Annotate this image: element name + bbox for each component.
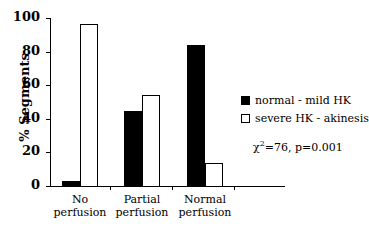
x-label-no-perfusion: No perfusion — [50, 193, 110, 219]
y-tick-20: 20 — [10, 143, 40, 158]
x-axis-tick — [234, 186, 235, 190]
legend-item-normal-mild: normal - mild HK — [241, 94, 351, 107]
legend-label: normal - mild HK — [255, 94, 351, 107]
y-tick-40: 40 — [10, 110, 40, 125]
y-axis-tick — [46, 152, 50, 153]
x-label-line2: perfusion — [175, 206, 235, 219]
legend-swatch-white — [241, 114, 250, 123]
bar-no-perfusion-normal-mild — [62, 181, 80, 187]
y-axis-tick — [46, 18, 50, 19]
y-axis-line — [50, 18, 51, 187]
y-tick-80: 80 — [10, 43, 40, 58]
x-axis-tick — [110, 186, 111, 190]
bar-partial-perfusion-normal-mild — [124, 111, 142, 187]
chi-value: =76, p=0.001 — [265, 141, 343, 154]
chi-symbol: χ — [253, 141, 260, 154]
legend-swatch-black — [241, 96, 250, 105]
x-label-partial-perfusion: Partial perfusion — [112, 193, 172, 219]
y-axis-tick — [46, 52, 50, 53]
x-label-line1: No — [50, 193, 110, 206]
bar-no-perfusion-severe — [80, 24, 98, 187]
bar-partial-perfusion-severe — [142, 95, 160, 187]
legend-item-severe: severe HK - akinesis — [241, 112, 369, 125]
y-axis-label: % Segments — [17, 48, 32, 148]
y-tick-0: 0 — [10, 177, 40, 192]
y-tick-60: 60 — [10, 76, 40, 91]
y-axis-tick — [46, 119, 50, 120]
bar-normal-perfusion-severe — [205, 163, 223, 187]
legend-label: severe HK - akinesis — [255, 112, 369, 125]
x-label-line1: Partial — [112, 193, 172, 206]
x-label-normal-perfusion: Normal perfusion — [175, 193, 235, 219]
x-label-line1: Normal — [175, 193, 235, 206]
x-label-line2: perfusion — [112, 206, 172, 219]
bar-normal-perfusion-normal-mild — [187, 45, 205, 187]
y-axis-tick — [46, 85, 50, 86]
chi-square-annotation: χ2=76, p=0.001 — [253, 139, 343, 154]
x-label-line2: perfusion — [50, 206, 110, 219]
x-axis-tick — [172, 186, 173, 190]
y-tick-100: 100 — [10, 9, 40, 24]
